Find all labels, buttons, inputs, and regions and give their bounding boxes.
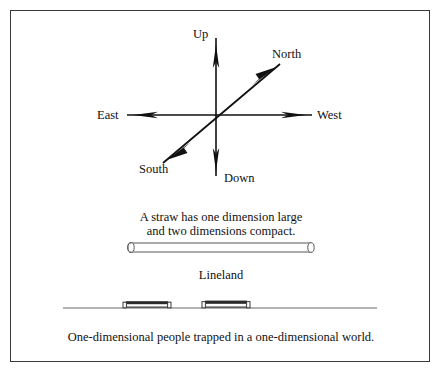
axis-label-up: Up bbox=[193, 28, 208, 41]
figure-border bbox=[10, 10, 430, 362]
axis-label-west: West bbox=[317, 109, 342, 122]
lineland-caption: One-dimensional people trapped in a one-… bbox=[0, 330, 442, 346]
axis-label-north: North bbox=[272, 48, 301, 61]
lineland-title: Lineland bbox=[0, 268, 442, 284]
axis-label-south: South bbox=[139, 163, 168, 176]
figure-page: Up North East West South Down A straw ha… bbox=[0, 0, 442, 375]
axis-label-down: Down bbox=[224, 172, 255, 185]
axis-label-east: East bbox=[97, 109, 119, 122]
straw-caption-line-2: and two dimensions compact. bbox=[0, 224, 442, 240]
